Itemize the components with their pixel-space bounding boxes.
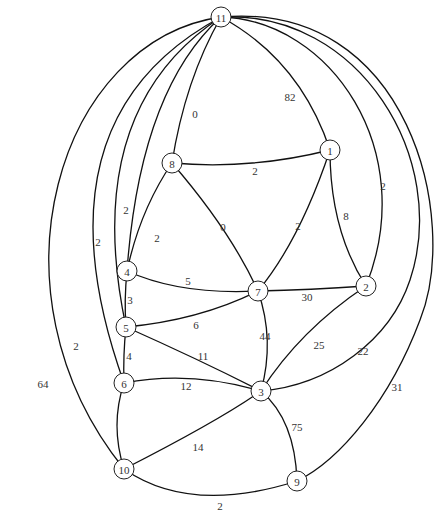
node-label: 9 [294, 476, 300, 488]
node-3: 3 [251, 381, 271, 401]
edge-weight-label: 6 [193, 319, 199, 331]
edge-weight-label: 2 [73, 340, 79, 352]
edge-weight-label: 2 [217, 500, 223, 512]
edge-weight-label: 30 [302, 291, 314, 303]
edge-weight-label: 14 [193, 441, 205, 453]
edge-11-4 [127, 17, 221, 271]
node-label: 4 [124, 266, 130, 278]
edge-labels-layer: 8202226422231202285330644114122514752 [38, 91, 403, 512]
edge-11-3 [221, 17, 420, 391]
edge-4-7 [127, 271, 258, 292]
edge-6-10 [117, 383, 124, 469]
edge-weight-label: 31 [392, 381, 403, 393]
edge-weight-label: 5 [185, 275, 191, 287]
node-8: 8 [162, 153, 182, 173]
edge-weight-label: 2 [295, 220, 301, 232]
edges-layer [49, 16, 433, 495]
edge-weight-label: 0 [192, 108, 198, 120]
node-label: 5 [123, 322, 129, 334]
node-9: 9 [287, 471, 307, 491]
edge-weight-label: 25 [314, 339, 326, 351]
edge-weight-label: 2 [95, 236, 101, 248]
edge-weight-label: 2 [154, 232, 160, 244]
node-4: 4 [117, 261, 137, 281]
node-label: 6 [121, 378, 127, 390]
edge-3-9 [261, 391, 297, 481]
graph-diagram: 8202226422231202285330644114122514752 11… [0, 0, 446, 520]
edge-weight-label: 75 [292, 421, 304, 433]
edge-weight-label: 22 [358, 345, 369, 357]
edge-8-7 [172, 163, 258, 291]
edge-weight-label: 2 [123, 204, 129, 216]
node-5: 5 [116, 317, 136, 337]
edge-weight-label: 2 [380, 180, 386, 192]
nodes-layer: 1118472563109 [114, 7, 376, 491]
node-1: 1 [320, 140, 340, 160]
edge-11-10 [49, 17, 221, 469]
edge-weight-label: 3 [127, 294, 133, 306]
edge-weight-label: 64 [38, 378, 50, 390]
node-label: 11 [216, 12, 227, 24]
node-6: 6 [114, 373, 134, 393]
edge-weight-label: 2 [252, 165, 258, 177]
edge-11-2 [221, 17, 382, 286]
edge-weight-label: 12 [181, 380, 192, 392]
edge-7-5 [126, 291, 258, 327]
edge-weight-label: 0 [220, 221, 226, 233]
edge-11-8 [172, 17, 221, 163]
edge-1-7 [258, 150, 330, 291]
node-label: 10 [119, 464, 131, 476]
edge-weight-label: 44 [260, 330, 272, 342]
node-7: 7 [248, 281, 268, 301]
edge-weight-label: 82 [285, 91, 296, 103]
node-label: 2 [363, 281, 369, 293]
edge-10-9 [124, 469, 297, 495]
edge-weight-label: 8 [343, 210, 349, 222]
node-11: 11 [211, 7, 231, 27]
node-label: 3 [258, 386, 264, 398]
edge-weight-label: 4 [126, 350, 132, 362]
node-label: 8 [169, 158, 175, 170]
edge-8-4 [127, 163, 172, 271]
node-10: 10 [114, 459, 134, 479]
node-label: 7 [255, 286, 261, 298]
edge-8-1 [172, 150, 330, 165]
edge-3-10 [124, 391, 261, 469]
node-2: 2 [356, 276, 376, 296]
edge-weight-label: 11 [198, 350, 209, 362]
node-label: 1 [327, 145, 333, 157]
edge-11-9 [221, 16, 433, 481]
edge-5-3 [126, 327, 261, 391]
